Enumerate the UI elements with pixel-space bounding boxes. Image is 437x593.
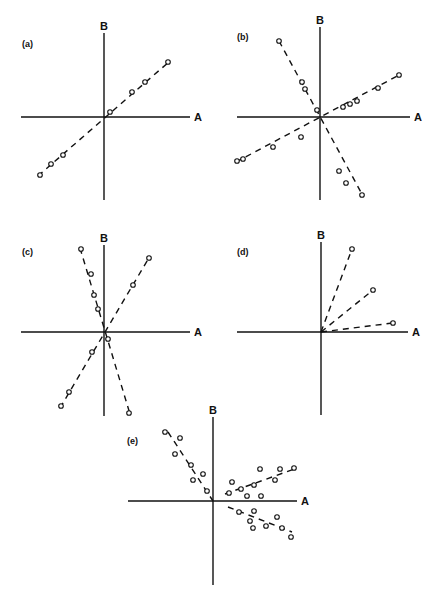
data-point-marker (252, 483, 257, 488)
data-point-marker (106, 337, 111, 342)
data-point-marker (230, 480, 235, 485)
data-point-marker (278, 467, 283, 472)
data-point-marker (289, 535, 294, 540)
y-axis-label: B (100, 20, 108, 32)
x-axis-label: A (301, 495, 309, 507)
data-point-marker (391, 321, 396, 326)
data-point-marker (127, 411, 132, 416)
dashed-trend-line (321, 323, 393, 332)
data-point-marker (189, 463, 194, 468)
data-point-marker (371, 288, 376, 293)
data-point-marker (90, 350, 95, 355)
data-point-marker (258, 467, 263, 472)
data-point-marker (96, 307, 101, 312)
data-point-marker (131, 283, 136, 288)
data-point-marker (397, 73, 402, 78)
data-point-marker (337, 169, 342, 174)
data-point-marker (130, 90, 135, 95)
y-axis-label: B (100, 232, 108, 244)
data-point-marker (205, 489, 210, 494)
data-point-marker (178, 436, 183, 441)
x-axis-label: A (412, 326, 420, 338)
data-point-marker (237, 510, 242, 515)
data-point-marker (166, 60, 171, 65)
data-point-marker (235, 159, 240, 164)
panel-label: (a) (22, 39, 33, 49)
panel-label: (b) (237, 32, 249, 42)
series-line-positive (235, 73, 402, 164)
dashed-trend-line (321, 249, 352, 332)
dashed-trend-line (225, 468, 297, 494)
panel-label: (c) (22, 247, 33, 257)
data-point-marker (350, 247, 355, 252)
data-point-marker (360, 193, 365, 198)
dashed-trend-line (279, 41, 363, 196)
data-point-marker (300, 80, 305, 85)
panel-d: AB(d) (237, 229, 420, 415)
data-point-marker (79, 247, 84, 252)
data-point-marker (163, 430, 168, 435)
figure-caption (22, 584, 422, 593)
data-point-marker (147, 256, 152, 261)
data-point-marker (303, 87, 308, 92)
data-point-marker (227, 491, 232, 496)
data-point-marker (271, 145, 276, 150)
panel-label: (d) (237, 247, 249, 257)
series-cluster-upper-right (225, 466, 297, 499)
data-point-marker (277, 39, 282, 44)
data-point-marker (38, 173, 43, 178)
data-point-marker (280, 526, 285, 531)
data-point-marker (315, 108, 320, 113)
data-point-marker (299, 135, 304, 140)
series-cluster-upper-left (163, 430, 213, 501)
panels-group: AB(a)AB(b)AB(c)AB(d)AB(e) (21, 14, 422, 585)
data-point-marker (59, 404, 64, 409)
y-axis-label: B (316, 14, 324, 26)
data-point-marker (248, 519, 253, 524)
panel-a: AB(a) (21, 20, 202, 200)
data-point-marker (245, 494, 250, 499)
series-ray-steep (321, 247, 354, 332)
data-point-marker (292, 466, 297, 471)
x-axis-label: A (194, 326, 202, 338)
data-point-marker (67, 390, 72, 395)
data-point-marker (143, 80, 148, 85)
x-axis-label: A (194, 111, 202, 123)
correlation-panels-figure: AB(a)AB(b)AB(c)AB(d)AB(e) (0, 0, 437, 593)
data-point-marker (275, 515, 280, 520)
x-axis-label: A (414, 111, 422, 123)
data-point-marker (92, 293, 97, 298)
data-point-marker (344, 181, 349, 186)
data-point-marker (191, 478, 196, 483)
data-point-marker (264, 524, 269, 529)
panel-e: AB(e) (127, 404, 309, 585)
data-point-marker (173, 452, 178, 457)
data-point-marker (241, 157, 246, 162)
y-axis-label: B (209, 404, 217, 416)
data-point-marker (239, 487, 244, 492)
data-point-marker (355, 99, 360, 104)
y-axis-label: B (317, 229, 325, 241)
data-point-marker (108, 110, 113, 115)
data-point-marker (251, 526, 256, 531)
data-point-marker (49, 162, 54, 167)
panel-b: AB(b) (235, 14, 422, 200)
data-point-marker (376, 86, 381, 91)
data-point-marker (341, 105, 346, 110)
series-cluster-lower-right (228, 507, 293, 539)
data-point-marker (89, 272, 94, 277)
panel-c: AB(c) (21, 232, 202, 416)
data-point-marker (259, 494, 264, 499)
data-point-marker (273, 478, 278, 483)
data-point-marker (252, 509, 257, 514)
panel-label: (e) (127, 436, 138, 446)
data-point-marker (201, 472, 206, 477)
data-point-marker (61, 153, 66, 158)
data-point-marker (348, 102, 353, 107)
